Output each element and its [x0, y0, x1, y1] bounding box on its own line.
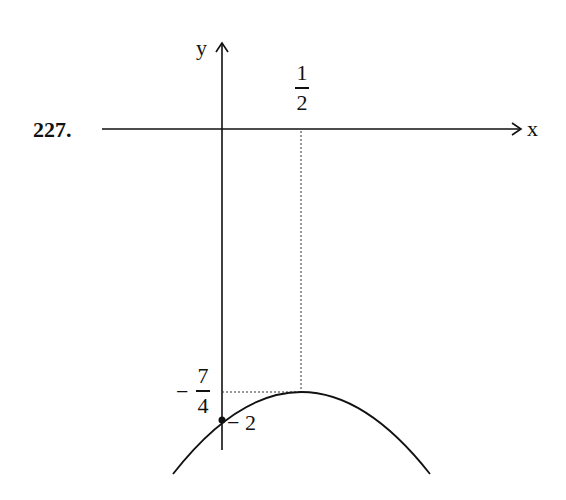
y-axis-label: y	[196, 37, 207, 59]
numerator: 1	[297, 62, 308, 84]
numerator: 7	[198, 365, 209, 387]
denominator: 4	[198, 395, 209, 417]
x-axis-label: x	[527, 118, 538, 140]
vertex-y-sign: −	[176, 381, 188, 403]
parabola-curve	[173, 392, 430, 474]
y-intercept-point	[219, 417, 226, 424]
vertex-y-label: 7 4	[196, 365, 210, 417]
graph-canvas	[0, 0, 566, 500]
denominator: 2	[297, 92, 308, 114]
vertex-x-label: 1 2	[295, 62, 309, 114]
fraction-bar	[295, 87, 309, 89]
fraction-bar	[196, 390, 210, 392]
y-intercept-label: − 2	[227, 412, 256, 434]
